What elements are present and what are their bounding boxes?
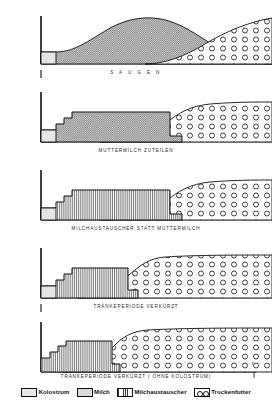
legend-item-milch: Milch <box>77 388 110 397</box>
panel-milchaustauscher-caption: MILCHAUSTAUSCHER STATT MUTTERMILCH <box>0 226 272 231</box>
panel-traenkeperiode-verkuerzt: TRÄNKEPERIODE VERKÜRZT <box>0 242 272 312</box>
panel-milchaustauscher-plot <box>0 164 272 234</box>
legend-label-milchaustauscher: Milchaustauscher <box>134 389 186 395</box>
legend-item-milchaustauscher: Milchaustauscher <box>117 388 187 397</box>
panel-saugen-area-kolostrum <box>41 52 56 64</box>
panel-saugen: S A U G E N <box>0 8 272 78</box>
panel-5-caption: TRÄNKEPERIODE VERKÜRZT ( OHNE KOLOSTRUM) <box>0 374 272 379</box>
panel-milchaustauscher-statt-muttermilch: MILCHAUSTAUSCHER STATT MUTTERMILCH <box>0 164 272 234</box>
panel-traenkeperiode-verkuerzt-ohne-kolostrum: t TRÄNKEPERIODE VERKÜRZT ( OHNE KOLOSTRU… <box>0 316 272 388</box>
panel-4-area-kolostrum <box>41 286 56 298</box>
panel-traenkeperiode-verkuerzt-caption: TRÄNKEPERIODE VERKÜRZT <box>0 304 272 309</box>
kolostrum-swatch-icon <box>21 388 37 397</box>
legend-label-kolostrum: Kolostrum <box>39 389 70 395</box>
milch-swatch-icon <box>77 388 93 397</box>
panel-2-area-milch <box>41 112 182 142</box>
legend-label-milch: Milch <box>94 389 110 395</box>
panel-3-area-kolostrum <box>41 208 56 220</box>
legend: Kolostrum Milch Milchaustauscher Trocken… <box>0 384 272 400</box>
panel-3-area-milchaustauscher <box>41 190 182 220</box>
figure-root: S A U G E N MUTTERMILCH ZUTEILEN MILCHAU… <box>0 0 272 402</box>
panel-2-area-kolostrum <box>41 130 56 142</box>
milchaustauscher-swatch-icon <box>117 388 133 397</box>
legend-item-trockenfutter: Trockenfutter <box>194 388 251 397</box>
panel-4-plot <box>0 242 272 312</box>
panel-5-area-milchaustauscher <box>41 341 120 372</box>
trockenfutter-swatch-icon <box>194 388 210 397</box>
panel-muttermilch-zuteilen-plot <box>0 86 272 156</box>
panel-muttermilch-zuteilen: MUTTERMILCH ZUTEILEN <box>0 86 272 156</box>
panel-muttermilch-zuteilen-caption: MUTTERMILCH ZUTEILEN <box>0 148 272 153</box>
legend-item-kolostrum: Kolostrum <box>21 388 69 397</box>
legend-label-trockenfutter: Trockenfutter <box>211 389 251 395</box>
panel-saugen-plot <box>0 8 272 78</box>
x-axis-label-t: t <box>252 360 253 366</box>
panel-saugen-caption: S A U G E N <box>0 70 272 75</box>
